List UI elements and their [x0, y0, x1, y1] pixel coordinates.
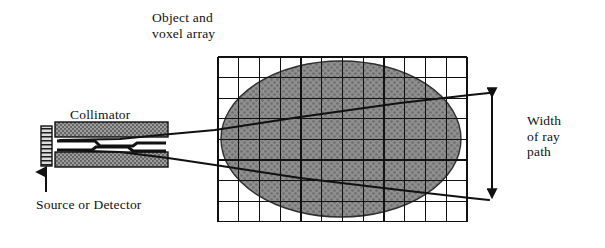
- label-collimator: Collimator: [70, 107, 131, 123]
- collimator-lower-bar: [55, 152, 168, 167]
- voxel-grid: [218, 57, 467, 222]
- ct-ray-path-diagram: Object and voxel array Collimator Source…: [0, 0, 605, 248]
- label-width-of-ray-path: Width of ray path: [527, 113, 561, 160]
- label-object-and-voxel-array: Object and voxel array: [152, 10, 215, 41]
- collimator-upper-bar: [55, 122, 168, 137]
- label-source-or-detector: Source or Detector: [36, 197, 142, 213]
- source-detector-block: [41, 126, 52, 166]
